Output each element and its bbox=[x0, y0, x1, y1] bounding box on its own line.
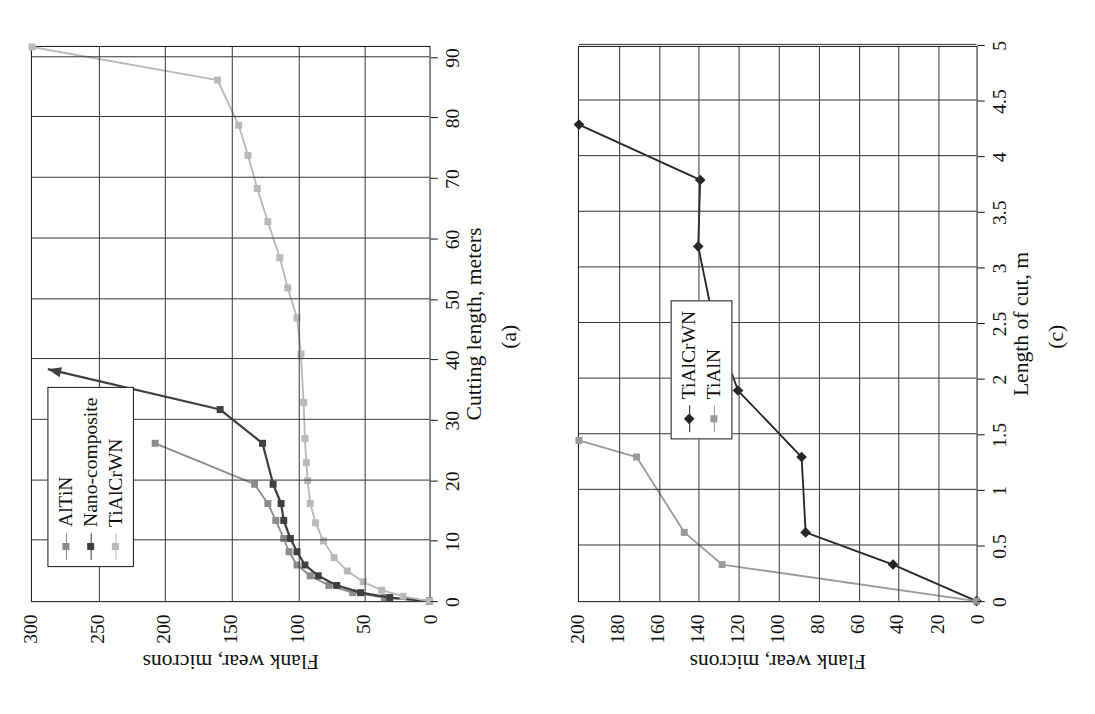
legend-marker-icon bbox=[108, 533, 122, 560]
data-point-marker bbox=[251, 481, 258, 488]
x-tick-mark bbox=[977, 601, 984, 602]
data-point-marker bbox=[264, 500, 271, 507]
gridline-vertical bbox=[31, 177, 429, 178]
panel-caption-c: (c) bbox=[1043, 325, 1069, 349]
y-tick-label: 200 bbox=[566, 615, 589, 697]
gridline-vertical bbox=[578, 155, 976, 156]
y-tick-label: 40 bbox=[886, 615, 909, 697]
x-tick-mark bbox=[430, 238, 437, 239]
gridline-vertical bbox=[578, 322, 976, 323]
gridline-horizontal bbox=[658, 47, 659, 601]
gridline-vertical bbox=[31, 237, 429, 238]
x-tick-mark bbox=[430, 178, 437, 179]
data-point-marker bbox=[276, 254, 283, 261]
y-tick-label: 0 bbox=[419, 615, 442, 697]
series-line-tialcrwn bbox=[578, 125, 976, 602]
x-tick-mark bbox=[430, 57, 437, 58]
data-point-marker bbox=[285, 548, 292, 555]
gridline-vertical bbox=[578, 266, 976, 267]
legend-label: AlTiN bbox=[54, 477, 77, 527]
gridline-horizontal bbox=[738, 47, 739, 601]
gridline-vertical bbox=[578, 211, 976, 212]
x-tick-mark bbox=[977, 156, 984, 157]
data-point-marker bbox=[284, 284, 291, 291]
data-point-marker bbox=[573, 119, 584, 130]
data-point-marker bbox=[280, 517, 287, 524]
legend-a: AlTiNNano-compositeTiAlCrWN bbox=[47, 387, 134, 567]
data-point-marker bbox=[286, 535, 293, 542]
y-axis-title-c: Flank wear, microns bbox=[689, 649, 865, 675]
chart-panel-a: 0102030405060708090 050100150200250300 C… bbox=[0, 0, 547, 714]
gridline-vertical bbox=[31, 56, 429, 57]
gridline-vertical bbox=[578, 489, 976, 490]
legend-marker-icon bbox=[681, 405, 695, 432]
data-point-marker bbox=[253, 185, 260, 192]
data-point-marker bbox=[306, 500, 313, 507]
gridline-horizontal bbox=[364, 47, 365, 601]
legend-marker-icon bbox=[58, 533, 72, 560]
legend-item: TiAlCrWN bbox=[103, 398, 128, 560]
gridline-horizontal bbox=[165, 47, 166, 601]
data-point-marker bbox=[300, 399, 307, 406]
legend-label: TiAlN bbox=[702, 349, 725, 399]
data-point-marker bbox=[301, 435, 308, 442]
gridline-horizontal bbox=[938, 47, 939, 601]
x-tick-mark bbox=[430, 420, 437, 421]
data-point-marker bbox=[800, 527, 811, 538]
data-point-marker bbox=[330, 554, 337, 561]
legend-label: TiAlCrWN bbox=[104, 438, 127, 526]
x-tick-mark bbox=[430, 299, 437, 300]
data-point-marker bbox=[264, 218, 271, 225]
x-axis-title-c: Length of cut, m bbox=[1008, 46, 1034, 602]
data-point-marker bbox=[343, 568, 350, 575]
data-point-marker bbox=[28, 43, 35, 50]
x-tick-mark bbox=[977, 490, 984, 491]
x-tick-mark bbox=[977, 45, 984, 46]
y-tick-label: 300 bbox=[19, 615, 42, 697]
data-point-marker bbox=[216, 406, 223, 413]
y-tick-label: 20 bbox=[926, 615, 949, 697]
data-point-marker bbox=[718, 561, 725, 568]
gridline-horizontal bbox=[898, 47, 899, 601]
data-point-marker bbox=[680, 529, 687, 536]
data-point-marker bbox=[280, 535, 287, 542]
legend-c: TiAlCrWNTiAlN bbox=[670, 300, 732, 439]
x-tick-mark bbox=[977, 323, 984, 324]
x-tick-mark bbox=[977, 434, 984, 435]
x-tick-mark bbox=[430, 117, 437, 118]
rotated-chart-canvas-c: 00.511.522.533.544.55 020406080100120140… bbox=[563, 17, 1078, 697]
figure-root: 0102030405060708090 050100150200250300 C… bbox=[0, 0, 1095, 714]
x-tick-mark bbox=[430, 480, 437, 481]
data-point-marker bbox=[399, 593, 406, 600]
data-point-marker bbox=[575, 437, 582, 444]
data-point-marker bbox=[269, 481, 276, 488]
data-point-marker bbox=[378, 587, 385, 594]
plot-area-c bbox=[577, 46, 977, 602]
data-point-marker bbox=[312, 519, 319, 526]
data-point-marker bbox=[692, 241, 703, 252]
data-point-marker bbox=[633, 454, 640, 461]
data-point-marker bbox=[301, 561, 308, 568]
data-point-marker bbox=[887, 559, 898, 570]
x-axis-title-a: Cutting length, meters bbox=[461, 46, 487, 602]
legend-item: Nano-composite bbox=[78, 398, 103, 560]
gridline-horizontal bbox=[231, 47, 232, 601]
gridline-vertical bbox=[31, 298, 429, 299]
y-tick-label: 180 bbox=[606, 615, 629, 697]
x-tick-mark bbox=[430, 601, 437, 602]
y-tick-label: 160 bbox=[646, 615, 669, 697]
data-point-marker bbox=[244, 152, 251, 159]
x-tick-mark bbox=[977, 212, 984, 213]
chart-panel-c: 00.511.522.533.544.55 020406080100120140… bbox=[547, 0, 1094, 714]
data-point-marker bbox=[214, 77, 221, 84]
legend-label: TiAlCrWN bbox=[677, 311, 700, 399]
legend-marker-icon bbox=[706, 405, 720, 432]
data-point-marker bbox=[272, 517, 279, 524]
data-point-marker bbox=[151, 440, 158, 447]
x-tick-mark bbox=[430, 359, 437, 360]
gridline-horizontal bbox=[778, 47, 779, 601]
gridline-horizontal bbox=[298, 47, 299, 601]
gridline-vertical bbox=[578, 44, 976, 45]
legend-marker-icon bbox=[83, 533, 97, 560]
legend-item: TiAlCrWN bbox=[676, 311, 701, 432]
